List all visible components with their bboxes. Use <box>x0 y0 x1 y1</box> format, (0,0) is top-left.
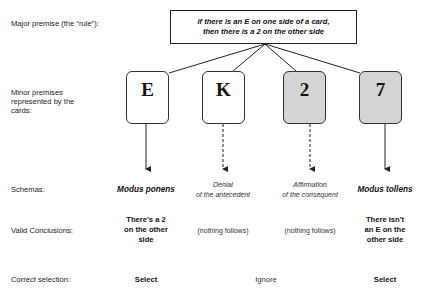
conclusion-7: There isn't an E on the other side <box>345 215 421 245</box>
schema-modus-tollens: Modus tollens <box>345 185 421 195</box>
rule-box: if there is an E on one side of a card, … <box>170 10 357 44</box>
conclusion-e-line-1: There's a 2 <box>106 215 186 225</box>
schema-denial-line-1: Denial <box>183 180 263 190</box>
rule-line-1: if there is an E on one side of a card, <box>197 17 329 27</box>
selection-e: Select <box>106 275 186 285</box>
schema-affirmation-consequent: Affirmation of the consequent <box>268 180 352 200</box>
card-k: K <box>202 71 245 124</box>
selection-ignore: Ignore <box>226 275 306 285</box>
conclusion-2: (nothing follows) <box>268 226 352 236</box>
selection-7: Select <box>345 275 421 285</box>
conclusion-7-line-1: There isn't <box>345 215 421 225</box>
schema-affirmation-line-1: Affirmation <box>268 180 352 190</box>
conclusion-k: (nothing follows) <box>183 226 263 236</box>
schema-affirmation-line-2: of the consequent <box>268 190 352 200</box>
schema-modus-ponens: Modus ponens <box>106 185 186 195</box>
conclusion-7-line-3: other side <box>345 235 421 245</box>
conclusion-7-line-2: an E on the <box>345 225 421 235</box>
card-e: E <box>126 71 169 124</box>
card-7: 7 <box>359 71 402 124</box>
schema-denial-antecedent: Denial of the antecedent <box>183 180 263 200</box>
card-2: 2 <box>283 71 326 124</box>
conclusion-e-line-3: side <box>106 235 186 245</box>
conclusion-e: There's a 2 on the other side <box>106 215 186 245</box>
rule-line-2: then there is a 2 on the other side <box>203 27 324 37</box>
conclusion-e-line-2: on the other <box>106 225 186 235</box>
schema-denial-line-2: of the antecedent <box>183 190 263 200</box>
